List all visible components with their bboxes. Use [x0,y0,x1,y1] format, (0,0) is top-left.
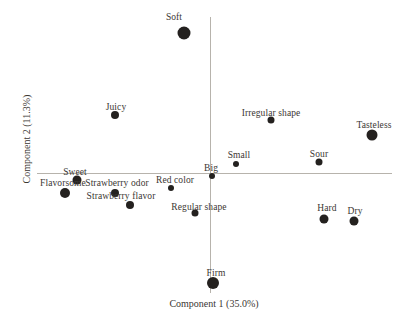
data-point-marker [209,173,215,179]
data-point-marker [367,130,378,141]
data-point-label: Soft [166,12,182,22]
data-point-marker [233,161,239,167]
data-point-label: Flavorsome [40,178,86,188]
data-point-marker [126,201,134,209]
data-point-marker [168,185,174,191]
data-point-label: Regular shape [171,202,226,212]
y-axis-line [210,17,211,293]
data-point-label: Sweet [63,167,87,177]
data-point-marker [350,217,359,226]
data-point-label: Irregular shape [242,108,301,118]
data-point-label: Juicy [106,102,127,112]
data-point-label: Big [204,163,218,173]
data-point-label: Firm [207,268,226,278]
data-point-marker [111,111,119,119]
data-point-marker [320,215,329,224]
data-point-label: Sour [310,149,328,159]
x-axis-title: Component 1 (35.0%) [169,298,258,309]
data-point-label: Red color [156,175,194,185]
data-point-label: Strawberry flavor [87,191,156,201]
pca-loading-plot: Component 1 (35.0%) Component 2 (11.3%) … [0,0,409,325]
data-point-label: Hard [317,203,336,213]
data-point-label: Tasteless [356,120,391,130]
data-point-marker [207,277,219,289]
data-point-label: Dry [347,206,362,216]
data-point-label: Small [228,150,251,160]
y-axis-title: Component 2 (11.3%) [21,95,32,184]
data-point-marker [178,27,191,40]
data-point-marker [316,159,323,166]
data-point-label: Strawberry odor [85,178,149,188]
data-point-marker [60,188,70,198]
